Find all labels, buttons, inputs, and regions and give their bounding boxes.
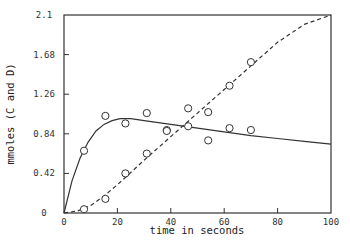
- y-axis-label: mmoles (C and D): [4, 63, 16, 164]
- data-point-D: [247, 59, 254, 66]
- y-tick-label: 1.68: [33, 50, 55, 60]
- x-axis-label: time in seconds: [150, 224, 245, 236]
- data-point-D: [226, 82, 233, 89]
- x-tick-label: 0: [61, 217, 66, 227]
- data-point-D: [143, 150, 150, 157]
- data-point-C: [226, 125, 233, 132]
- data-point-D: [205, 137, 212, 144]
- data-point-C: [185, 123, 192, 130]
- data-point-C: [185, 105, 192, 112]
- data-point-C: [122, 120, 129, 127]
- y-tick-label: 0.84: [33, 129, 55, 139]
- data-point-D: [102, 195, 109, 202]
- data-point-C: [247, 126, 254, 133]
- data-points: [80, 59, 254, 213]
- data-point-C: [143, 109, 150, 116]
- chart: 00.420.841.261.682.1 020406080100 time i…: [0, 0, 350, 247]
- x-tick-label: 80: [272, 217, 283, 227]
- y-tick-label: 0: [41, 208, 46, 218]
- y-tick-label: 2.1: [36, 10, 52, 20]
- data-point-C: [205, 109, 212, 116]
- y-tick-label: 1.26: [33, 89, 55, 99]
- data-point-C: [80, 147, 87, 154]
- x-tick-label: 20: [112, 217, 123, 227]
- data-point-D: [163, 127, 170, 134]
- data-point-D: [122, 170, 129, 177]
- x-tick-label: 100: [323, 217, 339, 227]
- y-tick-label: 0.42: [33, 168, 55, 178]
- data-point-D: [80, 206, 87, 213]
- data-point-C: [102, 112, 109, 119]
